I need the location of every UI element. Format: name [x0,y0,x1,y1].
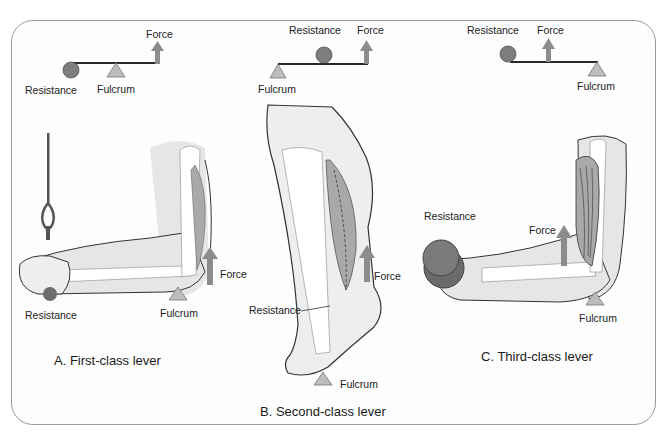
fulcrum-triangle-icon [314,372,332,385]
lever-illustrations [0,0,665,437]
anatomy-a-resistance-label: Resistance [25,309,77,321]
caption-first-class-lever: A. First-class lever [54,353,161,368]
resistance-ball-icon [43,287,57,301]
anatomy-a-force-label: Force [220,268,247,280]
resistance-ball-icon [63,62,79,78]
schematic-c-fulcrum-label: Fulcrum [577,80,615,92]
anatomy-c-resistance-label: Resistance [424,210,476,222]
anatomy-b-resistance-label: Resistance [249,304,301,316]
fulcrum-triangle-icon [270,64,286,78]
leg-second-class [267,105,381,385]
schematic-second-class [270,40,373,78]
schematic-c-resistance-label: Resistance [467,24,519,36]
force-arrow-icon [360,40,373,64]
arm-first-class [19,133,218,301]
anatomy-b-force-label: Force [374,270,401,282]
schematic-a-force-label: Force [146,28,173,40]
resistance-ball-icon [316,47,332,63]
force-arrow-icon [151,41,164,64]
schematic-c-force-label: Force [537,24,564,36]
schematic-a-fulcrum-label: Fulcrum [97,83,135,95]
fulcrum-triangle-icon [107,63,125,77]
fulcrum-triangle-icon [588,62,606,76]
schematic-b-force-label: Force [357,24,384,36]
anatomy-c-force-label: Force [529,224,556,236]
anatomy-c-fulcrum-label: Fulcrum [579,312,617,324]
schematic-first-class [63,41,164,78]
force-arrow-icon [542,38,555,62]
caption-third-class-lever: C. Third-class lever [481,349,593,364]
anatomy-b-fulcrum-label: Fulcrum [340,378,378,390]
anatomy-a-fulcrum-label: Fulcrum [160,307,198,319]
schematic-third-class [500,38,606,76]
schematic-a-resistance-label: Resistance [25,84,77,96]
caption-second-class-lever: B. Second-class lever [260,404,386,419]
schematic-b-resistance-label: Resistance [289,24,341,36]
schematic-b-fulcrum-label: Fulcrum [258,83,296,95]
resistance-ball-icon [500,46,516,62]
